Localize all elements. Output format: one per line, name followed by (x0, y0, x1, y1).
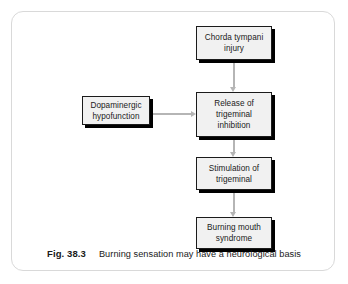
figure-caption-text: Burning sensation may have a neurologica… (99, 249, 301, 259)
connector-chorda-to-release (233, 63, 235, 87)
flow-node-label: Release of trigeminal inhibition (214, 98, 254, 131)
connector-dopaminergic-to-release (153, 113, 191, 115)
flow-node-release-of-trigeminal-inhibition: Release of trigeminal inhibition (196, 92, 272, 137)
connector-release-to-stimulation (233, 140, 235, 152)
flow-node-label: Stimulation of trigeminal (209, 163, 259, 185)
arrow-right-icon (191, 111, 196, 117)
flow-node-stimulation-of-trigeminal: Stimulation of trigeminal (196, 157, 272, 190)
flow-node-label: Chorda tympani injury (205, 32, 264, 54)
flow-node-burning-mouth-syndrome: Burning mouth syndrome (196, 217, 272, 249)
connector-stimulation-to-burning (233, 193, 235, 212)
flow-node-chorda-tympani-injury: Chorda tympani injury (196, 26, 272, 60)
arrow-down-icon (230, 87, 236, 92)
arrow-down-icon (230, 152, 236, 157)
flow-node-dopaminergic-hypofunction: Dopaminergic hypofunction (82, 96, 150, 125)
figure-card: Chorda tympani injury Release of trigemi… (11, 11, 335, 271)
flow-node-label: Burning mouth syndrome (207, 222, 261, 244)
figure-caption-label: Fig. 38.3 (47, 248, 86, 259)
flow-node-label: Dopaminergic hypofunction (90, 100, 141, 122)
figure-caption: Fig. 38.3 Burning sensation may have a n… (12, 248, 336, 259)
arrow-down-icon (230, 212, 236, 217)
flowchart-diagram: Chorda tympani injury Release of trigemi… (12, 12, 336, 272)
